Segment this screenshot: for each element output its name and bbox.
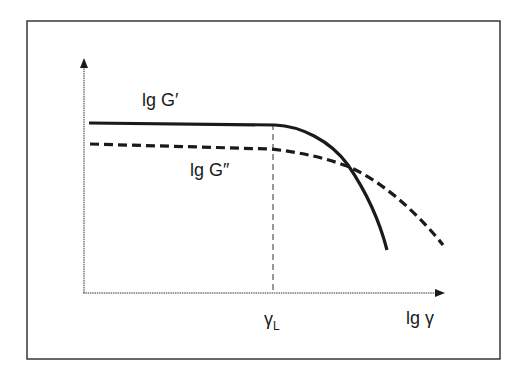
diagram-canvas: lg G′ lg G″ γL lg γ	[0, 0, 527, 369]
g-prime-label: lg G′	[142, 90, 179, 110]
gamma-symbol: γ	[264, 309, 273, 329]
g-prime-curve	[89, 123, 387, 250]
g-double-prime-curve	[90, 144, 443, 245]
gamma-subscript: L	[273, 319, 280, 333]
gamma-l-label: γL	[264, 309, 280, 333]
g-double-prime-label: lg G″	[190, 160, 230, 180]
x-axis-label: lg γ	[406, 308, 434, 328]
